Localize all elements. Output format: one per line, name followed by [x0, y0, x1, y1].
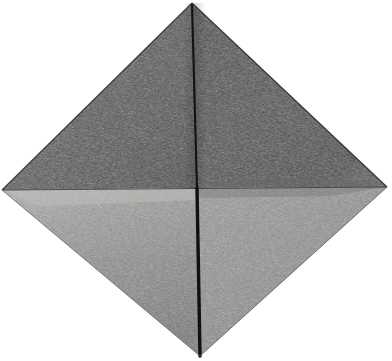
- folded-paper-illustration: [0, 0, 392, 361]
- photo-canvas: A dark grey folded paper square rotated …: [0, 0, 392, 361]
